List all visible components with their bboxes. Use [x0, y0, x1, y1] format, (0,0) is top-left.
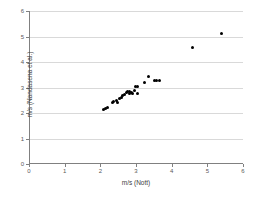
y-tick-label: 4	[6, 58, 24, 66]
y-tick-label: 3	[6, 84, 24, 92]
x-tick-label: 4	[162, 167, 182, 175]
gridline	[30, 139, 243, 140]
data-point	[131, 92, 134, 95]
y-tick-mark	[26, 164, 29, 165]
scatter-chart-figure: 0123456 0123456 m/s (Nott) m/s (Nandasen…	[0, 0, 258, 197]
data-point	[136, 85, 139, 88]
plot-area	[29, 11, 243, 164]
x-tick-label: 1	[55, 167, 75, 175]
y-tick-label: 5	[6, 33, 24, 41]
data-point	[220, 32, 223, 35]
data-point	[106, 106, 109, 109]
x-tick-label: 2	[90, 167, 110, 175]
data-point	[191, 46, 194, 49]
x-tick-label: 0	[19, 167, 39, 175]
data-point	[143, 81, 146, 84]
gridline	[30, 11, 243, 12]
y-tick-label: 1	[6, 135, 24, 143]
data-point	[147, 75, 150, 78]
y-tick-label: 6	[6, 7, 24, 15]
data-point	[136, 92, 139, 95]
data-point	[133, 89, 136, 92]
y-axis-label: m/s (Nandasena et al.)	[25, 8, 34, 161]
gridline	[30, 62, 243, 63]
gridline	[30, 113, 243, 114]
gridline	[30, 37, 243, 38]
y-tick-label: 2	[6, 109, 24, 117]
x-tick-label: 3	[126, 167, 146, 175]
x-tick-label: 6	[233, 167, 253, 175]
x-tick-label: 5	[197, 167, 217, 175]
data-point	[158, 79, 161, 82]
y-tick-label: 0	[6, 160, 24, 168]
x-axis-label: m/s (Nott)	[29, 178, 243, 187]
data-point	[116, 101, 119, 104]
